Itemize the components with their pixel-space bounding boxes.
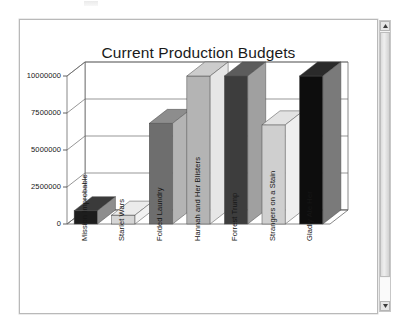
scroll-down-button[interactable] [380,301,390,311]
x-axis-category-label: Strangers on a Stain [268,171,277,241]
y-axis-tick-label: 5000000 [31,145,61,154]
y-axis-tick-label: 7500000 [31,108,61,117]
scrollbar-track-lower[interactable] [380,278,390,302]
x-axis-category-label: Gladly Ate Her [305,191,314,241]
y-axis-tick-label: 0 [57,219,61,228]
x-axis-category-label: Hannah and Her Blisters [193,157,202,241]
caret-down-icon [383,304,388,308]
x-axis-category-label: Folded Laundry [155,187,164,241]
slide-frame: Current Production Budgets 13000000 0250… [19,19,378,314]
vertical-scrollbar[interactable] [379,20,391,312]
y-axis-tick-label: 2500000 [31,182,61,191]
scrollbar-thumb[interactable] [380,32,390,277]
x-axis-category-label: Forrest Trump [230,193,239,241]
screenshot-root: Current Production Budgets 13000000 0250… [0,0,408,329]
scroll-up-button[interactable] [380,21,390,31]
x-axis-category-label: Starlet Wars [117,199,126,241]
bar-chart[interactable]: Current Production Budgets 13000000 0250… [20,20,377,313]
caret-up-icon [383,24,388,28]
scan-artifact [84,1,98,6]
x-axis-category-label: Mission Improbable [80,174,89,241]
y-axis-tick-label: 10000000 [27,71,61,80]
